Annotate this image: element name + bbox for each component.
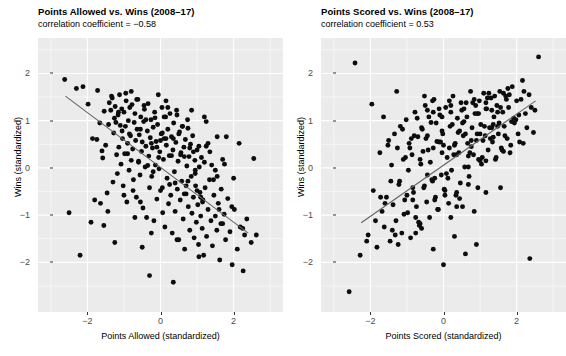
data-point (448, 110, 453, 115)
data-point (116, 110, 121, 115)
data-point (94, 137, 99, 142)
data-point (457, 129, 462, 134)
data-point (173, 209, 178, 214)
data-point (447, 146, 452, 151)
plot-title-right: Points Scored vs. Wins (2008–17) (321, 6, 474, 17)
data-point (190, 133, 195, 138)
data-point (151, 169, 156, 174)
data-point (117, 92, 122, 97)
data-point (474, 242, 479, 247)
plot-canvas-right (321, 38, 566, 312)
y-tick-mark (333, 215, 336, 216)
y-tick-label: 2 (14, 68, 30, 78)
data-point (422, 183, 427, 188)
data-point (445, 155, 450, 160)
data-point (138, 127, 143, 132)
data-point (137, 132, 142, 137)
data-point (254, 233, 259, 238)
data-point (165, 176, 170, 181)
data-point (505, 86, 510, 91)
y-axis-title-right: Wins (standardized) (296, 82, 306, 232)
data-point (149, 231, 154, 236)
data-point (220, 157, 225, 162)
data-point (190, 211, 195, 216)
y-tick-mark (50, 167, 53, 168)
data-point (78, 253, 83, 258)
data-point (131, 177, 136, 182)
panel-points-allowed: Points Allowed vs. Wins (2008–17) correl… (0, 0, 283, 356)
data-point (457, 196, 462, 201)
data-point (192, 158, 197, 163)
data-point (476, 157, 481, 162)
data-point (460, 121, 465, 126)
x-tick-label: 0 (158, 316, 163, 326)
data-point (121, 183, 126, 188)
data-point (500, 148, 505, 153)
data-point (435, 207, 440, 212)
data-point (441, 143, 446, 148)
data-point (509, 119, 514, 124)
data-point (481, 91, 486, 96)
data-point (427, 215, 432, 220)
data-point (431, 146, 436, 151)
data-point (454, 204, 459, 209)
data-point (160, 131, 165, 136)
data-point (170, 148, 175, 153)
data-point (495, 110, 500, 115)
data-point (415, 116, 420, 121)
data-point (430, 98, 435, 103)
data-point (186, 204, 191, 209)
data-point (136, 159, 141, 164)
data-point (467, 150, 472, 155)
data-point (182, 191, 187, 196)
data-point (454, 190, 459, 195)
data-point (108, 108, 113, 113)
plot-area-left (38, 38, 283, 312)
data-point (200, 226, 205, 231)
data-point (140, 139, 145, 144)
y-tick-mark (50, 215, 53, 216)
data-point (366, 233, 371, 238)
y-tick-mark (333, 262, 336, 263)
x-tick-mark (161, 312, 162, 315)
data-point (132, 111, 137, 116)
data-point (437, 139, 442, 144)
x-tick-mark (444, 312, 445, 315)
data-point (441, 262, 446, 267)
data-point (500, 110, 505, 115)
data-point (185, 126, 190, 131)
data-point (507, 92, 512, 97)
data-point (463, 251, 468, 256)
data-point (460, 204, 465, 209)
data-point (224, 134, 229, 139)
data-point (443, 193, 448, 198)
data-point (192, 235, 197, 240)
data-point (210, 243, 215, 248)
data-point (428, 160, 433, 165)
data-point (358, 253, 363, 258)
data-point (486, 148, 491, 153)
data-point (483, 100, 488, 105)
data-point (133, 138, 138, 143)
y-tick-label: 2 (297, 68, 313, 78)
data-point (494, 155, 499, 160)
data-point (452, 234, 457, 239)
data-point (498, 185, 503, 190)
data-point (485, 96, 490, 101)
data-point (195, 188, 200, 193)
data-point (443, 105, 448, 110)
data-point (448, 215, 453, 220)
data-point (89, 220, 94, 225)
data-point (147, 273, 152, 278)
data-point (399, 231, 404, 236)
data-point (228, 229, 233, 234)
data-point (202, 160, 207, 165)
scatter-plot-figure: Points Allowed vs. Wins (2008–17) correl… (0, 0, 566, 356)
data-point (491, 122, 496, 127)
data-point (164, 136, 169, 141)
data-point (169, 153, 174, 158)
data-point (482, 124, 487, 129)
data-point (429, 120, 434, 125)
data-point (404, 193, 409, 198)
data-point (410, 198, 415, 203)
